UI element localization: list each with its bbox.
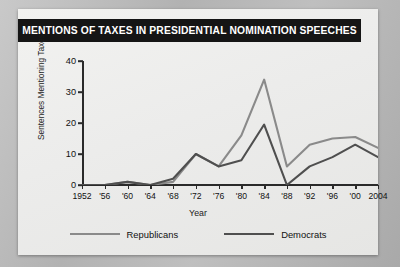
x-tick-mark [378,185,379,189]
x-tick-label: '88 [281,191,292,201]
x-tick-label: '80 [236,191,247,201]
x-tick-mark [264,185,265,189]
x-tick-mark [82,185,83,189]
x-tick-label: '96 [327,191,338,201]
x-tick-mark [241,185,242,189]
x-tick-label: '84 [259,191,270,201]
x-tick-label: '56 [99,191,110,201]
x-tick-mark [310,185,311,189]
x-tick-mark [128,185,129,189]
x-tick-label: '68 [167,191,178,201]
x-tick-mark [196,185,197,189]
legend-label-republicans: Republicans [127,229,179,240]
x-tick-mark [219,185,220,189]
x-tick-label: 1952 [72,191,91,201]
y-tick-label: 20 [56,118,76,128]
x-tick-label: 2004 [368,191,387,201]
x-tick-label: '72 [190,191,201,201]
x-tick-mark [355,185,356,189]
chart-title-bar: MENTIONS OF TAXES IN PRESIDENTIAL NOMINA… [18,19,361,42]
line-series-svg [82,61,378,185]
legend-label-democrats: Democrats [281,229,326,240]
legend-swatch-democrats [224,233,274,236]
x-tick-mark [105,185,106,189]
y-tick-label: 30 [56,87,76,97]
legend-item-democrats: Democrats [224,229,326,240]
y-tick-label: 0 [56,180,76,190]
x-tick-label: '64 [145,191,156,201]
x-tick-mark [332,185,333,189]
x-tick-mark [150,185,151,189]
legend-item-republicans: Republicans [70,229,179,240]
chart-plot-area: Sentences Mentioning Taxes 010203040 195… [18,48,378,208]
y-tick-label: 40 [56,56,76,66]
x-axis-tick-labels: 1952'56'60'64'68'72'76'80'84'88'92'96'00… [18,191,378,205]
series-line-democrats [82,125,378,185]
y-axis-label: Sentences Mentioning Taxes [36,26,46,148]
x-axis-tick-marks [82,185,378,190]
legend-swatch-republicans [70,233,120,236]
x-tick-label: '76 [213,191,224,201]
series-line-republicans [82,80,378,185]
x-axis-label: Year [18,208,378,218]
chart-legend: Republicans Democrats [18,226,378,242]
x-tick-label: '92 [304,191,315,201]
page-title: MENTIONS OF TAXES IN PRESIDENTIAL NOMINA… [22,25,357,36]
x-tick-label: '00 [350,191,361,201]
y-axis-tick-labels: 010203040 [56,48,76,208]
y-tick-label: 10 [56,149,76,159]
chart-series-canvas [82,61,378,185]
x-tick-mark [173,185,174,189]
x-tick-mark [287,185,288,189]
x-tick-label: '60 [122,191,133,201]
